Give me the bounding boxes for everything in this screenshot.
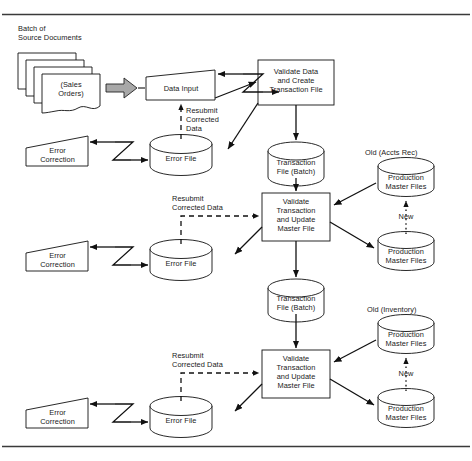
master-new-accts-line2: Master Files xyxy=(376,256,436,265)
error-file-label-2: Error File xyxy=(151,259,211,268)
error-correction-1-line2: Correction xyxy=(30,155,85,164)
resubmit-1-line3: Data xyxy=(186,124,202,133)
master-old-inventory-line1: Production xyxy=(376,330,436,339)
zigzag-connector-3 xyxy=(113,404,133,422)
process-stage3-line3: and Update xyxy=(264,372,328,381)
old-label-inventory: Old (Inventory) xyxy=(367,305,417,314)
data-input-label[interactable]: Data Input xyxy=(148,84,214,93)
process-stage2-line2: Transaction xyxy=(264,206,328,215)
transaction-file-1-line1: Transaction xyxy=(264,158,328,167)
batch-caption-line2: Source Documents xyxy=(18,33,82,42)
arrow-validate3-to-errorfile3 xyxy=(235,384,262,411)
process-stage3-line2: Transaction xyxy=(264,363,328,372)
arrow-validate2-to-errorfile2 xyxy=(235,227,262,254)
resubmit-3-line2: Corrected Data xyxy=(172,360,223,369)
sales-orders-line1: (Sales xyxy=(46,80,96,89)
batch-caption-line1: Batch of xyxy=(18,24,46,33)
master-new-accts-line1: Production xyxy=(376,247,436,256)
resubmit-2-line1: Resubmit xyxy=(172,194,204,203)
transaction-file-1-line2: File (Batch) xyxy=(264,167,328,176)
master-new-inventory-line1: Production xyxy=(376,404,436,413)
error-correction-3-line2: Correction xyxy=(30,417,85,426)
error-correction-3-line1: Error xyxy=(30,408,85,417)
new-label-accts: New xyxy=(386,212,426,221)
resubmit-1-line1: Resubmit xyxy=(186,106,218,115)
transaction-file-2-line1: Transaction xyxy=(264,294,328,303)
arrow-validate3-to-masternew xyxy=(330,379,374,405)
flowchart-canvas: Batch of Source Documents (Sales Orders)… xyxy=(0,0,472,461)
old-label-accts: Old (Accts Rec) xyxy=(365,148,418,157)
process-stage2-line1: Validate xyxy=(264,197,328,206)
new-label-inventory: New xyxy=(386,369,426,378)
sales-orders-line2: Orders) xyxy=(46,89,96,98)
error-correction-1-line1: Error xyxy=(30,146,85,155)
zigzag-connector-1 xyxy=(113,142,133,160)
process-stage3-line4: Master File xyxy=(264,381,328,390)
zigzag-connector-2 xyxy=(113,247,133,265)
process-stage1-line1: Validate Data xyxy=(260,67,332,76)
transaction-file-2-line2: File (Batch) xyxy=(264,303,328,312)
arrow-validate2-to-masternew xyxy=(330,222,374,248)
error-correction-2-line1: Error xyxy=(30,251,85,260)
error-file-label-3: Error File xyxy=(151,416,211,425)
resubmit-3-line1: Resubmit xyxy=(172,351,204,360)
process-stage2-line3: and Update xyxy=(264,215,328,224)
master-new-inventory-line2: Master Files xyxy=(376,413,436,422)
arrow-datainput-to-validate1 xyxy=(215,82,256,98)
error-correction-2-line2: Correction xyxy=(30,260,85,269)
master-old-accts-line1: Production xyxy=(376,173,436,182)
resubmit-1-line2: Corrected xyxy=(186,115,219,124)
process-stage1-line2: and Create xyxy=(260,76,332,85)
process-stage2-line4: Master File xyxy=(264,224,328,233)
resubmit-2-line2: Corrected Data xyxy=(172,203,223,212)
master-old-inventory-line2: Master Files xyxy=(376,339,436,348)
process-stage1-line3: Transaction File xyxy=(260,85,332,94)
error-file-label-1: Error File xyxy=(151,154,211,163)
flowchart-vector-layer xyxy=(0,0,472,461)
arrow-validate1-to-errorfile1 xyxy=(228,103,258,149)
arrow-masterold-to-validate2 xyxy=(334,183,376,205)
master-old-accts-line2: Master Files xyxy=(376,182,436,191)
block-arrow-right-icon xyxy=(106,78,137,98)
process-stage3-line1: Validate xyxy=(264,354,328,363)
arrow-masterold-to-validate3 xyxy=(334,340,376,362)
